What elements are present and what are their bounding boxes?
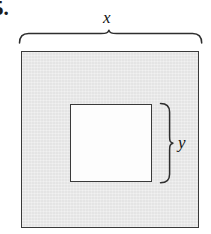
problem-number: 5. (0, 0, 9, 19)
dimension-label-y: y (178, 134, 186, 151)
figure-container: 5. x y (0, 0, 211, 234)
inner-square (70, 104, 152, 182)
dimension-label-x: x (103, 9, 111, 26)
x-dimension-brace (20, 30, 202, 43)
